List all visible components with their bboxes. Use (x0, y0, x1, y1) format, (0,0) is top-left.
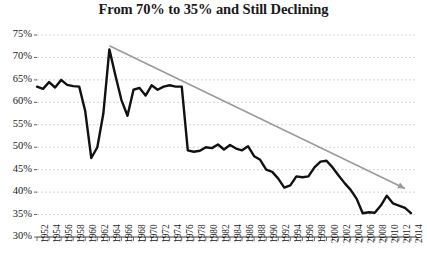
gridlines-group (37, 35, 417, 215)
x-axis-tick-label: 1968 (138, 224, 147, 243)
x-axis-tick-label: 1982 (222, 224, 231, 243)
y-axis-tick-label: 55% (0, 119, 32, 129)
x-axis-tick-label: 1976 (186, 224, 195, 243)
x-axis-tick-label: 1956 (65, 224, 74, 243)
x-axis-tick-label: 1978 (198, 224, 207, 243)
x-axis-tick-label: 2010 (391, 224, 400, 243)
x-axis-tick-label: 2014 (415, 224, 424, 243)
x-axis-tick-label: 1966 (125, 224, 134, 243)
y-axis-tick-label: 60% (0, 96, 32, 106)
y-axis-tick-label: 50% (0, 141, 32, 151)
x-axis-tick-label: 2006 (367, 224, 376, 243)
trend-line (109, 46, 405, 189)
x-axis-tick-label: 1960 (89, 224, 98, 243)
chart-container: From 70% to 35% and Still Declining 75%7… (0, 0, 427, 277)
y-axis-tick-label: 35% (0, 209, 32, 219)
x-axis-tick-label: 1990 (270, 224, 279, 243)
data-line-series (37, 49, 411, 213)
x-axis-tick-label: 1970 (150, 224, 159, 243)
x-axis-tick-label: 1988 (258, 224, 267, 243)
x-axis-tick-label: 1994 (294, 224, 303, 243)
x-axis-tick-label: 1996 (306, 224, 315, 243)
x-axis-tick-label: 2012 (403, 224, 412, 243)
x-axis-tick-label: 1962 (101, 224, 110, 243)
x-axis-tick-label: 1998 (318, 224, 327, 243)
x-axis-tick-label: 1974 (174, 224, 183, 243)
x-axis-tick-label: 1986 (246, 224, 255, 243)
x-axis-tick-label: 1958 (77, 224, 86, 243)
x-axis-tick-label: 1980 (210, 224, 219, 243)
x-axis-tick-label: 1964 (113, 224, 122, 243)
x-axis-tick-label: 1992 (282, 224, 291, 243)
y-axis-tick-label: 30% (0, 231, 32, 241)
x-axis-tick-label: 1954 (53, 224, 62, 243)
x-axis-tick-label: 1952 (41, 224, 50, 243)
y-axis-tick-label: 40% (0, 186, 32, 196)
x-axis-tick-label: 2008 (379, 224, 388, 243)
x-axis-tick-label: 2004 (355, 224, 364, 243)
x-axis-tick-label: 1984 (234, 224, 243, 243)
y-axis-tick-label: 75% (0, 29, 32, 39)
x-axis-tick-label: 2002 (343, 224, 352, 243)
y-axis-tick-label: 65% (0, 74, 32, 84)
y-axis-tick-label: 45% (0, 164, 32, 174)
y-axis-tick-label: 70% (0, 51, 32, 61)
y-axis-ticks-group (34, 35, 37, 237)
x-axis-tick-label: 1972 (162, 224, 171, 243)
x-axis-tick-label: 2000 (331, 224, 340, 243)
